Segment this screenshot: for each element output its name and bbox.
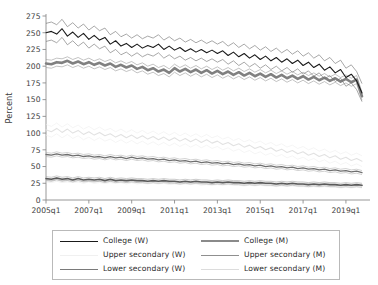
y-tick-label: 250 <box>26 29 41 38</box>
legend-item-label: Upper secondary (M) <box>244 251 326 259</box>
series-upper-ci <box>46 152 362 171</box>
plot-area: 02550751001251501752002252502752005q1200… <box>0 0 378 222</box>
series-line <box>46 152 362 175</box>
x-tick-label: 2013q1 <box>203 206 232 215</box>
legend-item-label: Lower secondary (W) <box>103 265 185 273</box>
legend-item-label: College (M) <box>244 237 288 245</box>
legend-item[interactable]: College (W) <box>55 237 196 245</box>
x-tick-label: 2011q1 <box>160 206 189 215</box>
y-tick-label: 0 <box>36 196 41 205</box>
y-axis: 0255075100125150175200225250275 <box>26 12 46 205</box>
y-tick-label: 275 <box>26 12 41 21</box>
legend-box: College (W)College (M)Upper secondary (W… <box>52 230 340 280</box>
legend-item[interactable]: College (M) <box>196 237 337 245</box>
series-mean-line <box>46 128 362 161</box>
y-tick-label: 175 <box>26 79 41 88</box>
series-line <box>46 176 362 187</box>
legend-line-swatch <box>201 240 239 242</box>
legend-line-swatch <box>60 255 98 256</box>
series-mean-line <box>46 29 362 93</box>
series-lower-ci <box>46 156 362 175</box>
y-tick-label: 100 <box>26 129 41 138</box>
chart-legend: College (W)College (M)Upper secondary (W… <box>52 230 340 280</box>
series-lower-ci <box>46 37 362 101</box>
legend-item-label: Upper secondary (W) <box>103 251 186 259</box>
y-tick-label: 50 <box>31 162 41 171</box>
legend-line-swatch <box>60 241 98 242</box>
legend-item[interactable]: Upper secondary (M) <box>196 251 337 259</box>
legend-item-label: Lower secondary (M) <box>244 265 325 273</box>
legend-line-swatch <box>60 269 98 270</box>
series-line <box>46 57 362 100</box>
x-tick-label: 2017q1 <box>289 206 318 215</box>
legend-line-swatch <box>201 269 239 270</box>
y-tick-label: 200 <box>26 62 41 71</box>
x-axis: 2005q12007q12009q12011q12013q12015q12017… <box>32 200 370 215</box>
series-upper-ci <box>46 123 362 156</box>
x-tick-label: 2005q1 <box>32 206 61 215</box>
x-tick-label: 2009q1 <box>117 206 146 215</box>
x-tick-label: 2015q1 <box>246 206 275 215</box>
chart-figure: 02550751001251501752002252502752005q1200… <box>0 0 378 285</box>
legend-item-label: College (W) <box>103 237 148 245</box>
legend-item[interactable]: Lower secondary (M) <box>196 265 337 273</box>
legend-item[interactable]: Upper secondary (W) <box>55 251 196 259</box>
x-tick-label: 2007q1 <box>74 206 103 215</box>
y-tick-label: 125 <box>26 112 41 121</box>
series-mean-line <box>46 154 362 173</box>
x-tick-label: 2019q1 <box>331 206 360 215</box>
y-tick-label: 150 <box>26 95 41 104</box>
y-tick-label: 25 <box>31 179 41 188</box>
series-mean-line <box>46 61 362 96</box>
time-series-chart: 02550751001251501752002252502752005q1200… <box>0 0 378 222</box>
y-tick-label: 75 <box>31 146 41 155</box>
y-tick-label: 225 <box>26 45 41 54</box>
series-upper-ci <box>46 57 362 92</box>
y-axis-title: Percent <box>4 92 14 124</box>
legend-item[interactable]: Lower secondary (W) <box>55 265 196 273</box>
legend-line-swatch <box>201 255 239 256</box>
